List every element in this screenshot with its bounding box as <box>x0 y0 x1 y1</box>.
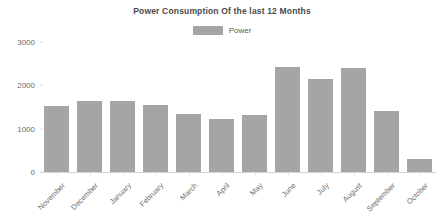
plot-area: 0100020003000 <box>40 42 436 172</box>
x-axis-tick-mark <box>57 172 58 175</box>
x-axis-tick-label: August <box>341 181 364 204</box>
bar[interactable] <box>44 106 69 172</box>
x-axis-tick-mark <box>156 172 157 175</box>
y-axis-tick-label: 1000 <box>17 124 35 133</box>
x-axis-tick-label: March <box>178 181 199 202</box>
x-axis-tick-mark <box>222 172 223 175</box>
bar-slot <box>374 42 399 172</box>
bar[interactable] <box>110 101 135 173</box>
legend-label-power: Power <box>229 26 252 35</box>
bar[interactable] <box>308 79 333 172</box>
x-axis: NovemberDecemberJanuaryFebruaryMarchApri… <box>40 172 436 216</box>
x-axis-tick-mark <box>90 172 91 175</box>
x-axis-tick-label: January <box>108 181 133 206</box>
chart-title: Power Consumption Of the last 12 Months <box>0 6 444 16</box>
bar[interactable] <box>374 111 399 172</box>
bar-slot <box>209 42 234 172</box>
bar[interactable] <box>242 115 267 172</box>
x-axis-tick-label: February <box>138 181 166 209</box>
bar-chart: Power Consumption Of the last 12 Months … <box>0 0 444 216</box>
chart-legend: Power <box>0 26 444 35</box>
x-axis-tick-mark <box>288 172 289 175</box>
x-axis-tick-mark <box>354 172 355 175</box>
y-axis-tick-label: 0 <box>31 168 35 177</box>
x-axis-tick-label: September <box>365 181 397 213</box>
bar[interactable] <box>143 105 168 172</box>
bar-slot <box>110 42 135 172</box>
x-axis-tick-mark <box>123 172 124 175</box>
x-axis-tick-mark <box>189 172 190 175</box>
bar[interactable] <box>176 114 201 172</box>
bar-slot <box>44 42 69 172</box>
bar[interactable] <box>341 68 366 172</box>
x-axis-tick-label: June <box>280 181 298 199</box>
x-axis-tick-mark <box>420 172 421 175</box>
bar[interactable] <box>275 67 300 172</box>
x-axis-tick-label: November <box>36 181 67 212</box>
x-axis-tick-label: May <box>248 181 264 197</box>
bar[interactable] <box>407 159 432 172</box>
bar-slot <box>275 42 300 172</box>
y-axis-tick-label: 3000 <box>17 38 35 47</box>
x-axis-tick-label: April <box>215 181 232 198</box>
bar-slot <box>143 42 168 172</box>
bar-slot <box>308 42 333 172</box>
x-axis-tick-label: December <box>69 181 100 212</box>
bar-slot <box>407 42 432 172</box>
bar-slot <box>176 42 201 172</box>
bar-slot <box>341 42 366 172</box>
bar-slot <box>77 42 102 172</box>
bar-series-power <box>40 42 436 172</box>
y-axis-tick-label: 2000 <box>17 81 35 90</box>
legend-swatch-power <box>193 26 223 35</box>
x-axis-tick-mark <box>387 172 388 175</box>
x-axis-tick-mark <box>321 172 322 175</box>
x-axis-tick-label: July <box>315 181 331 197</box>
bar[interactable] <box>209 119 234 172</box>
x-axis-tick-mark <box>255 172 256 175</box>
x-axis-tick-label: October <box>405 181 430 206</box>
bar-slot <box>242 42 267 172</box>
bar[interactable] <box>77 101 102 172</box>
